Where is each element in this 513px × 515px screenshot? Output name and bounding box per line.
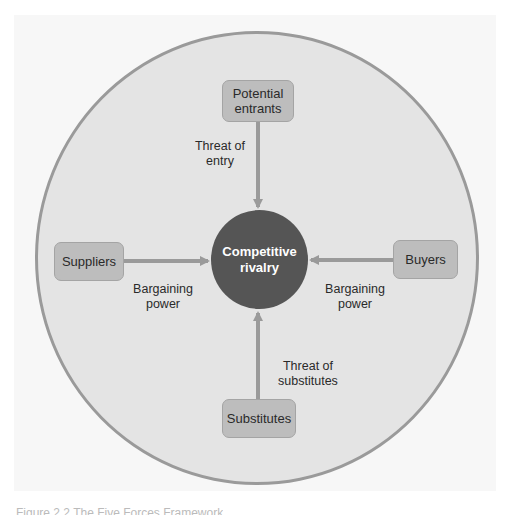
figure-caption: Figure 2.2 The Five Forces Framework [16, 506, 223, 515]
suppliers-label: Suppliers [62, 254, 116, 269]
suppliers-box: Suppliers [54, 242, 124, 281]
competitive-rivalry-node: Competitive rivalry [211, 210, 308, 309]
buyer-power-line1: Bargaining [320, 282, 390, 297]
substitutes-label-line2: substitutes [268, 374, 348, 389]
supplier-power-line1: Bargaining [128, 282, 198, 297]
center-label-line1: Competitive [222, 244, 296, 260]
entrants-label-line1: Potential [233, 86, 284, 101]
substitutes-label: Substitutes [227, 411, 291, 426]
buyer-bargaining-power-label: Bargaining power [320, 282, 390, 312]
threat-of-entry-label: Threat of entry [190, 139, 250, 169]
buyers-label: Buyers [405, 252, 445, 267]
buyers-box: Buyers [393, 240, 458, 279]
center-label-line2: rivalry [222, 260, 296, 276]
entrants-label-line2: entrants [233, 101, 284, 116]
supplier-power-line2: power [128, 297, 198, 312]
substitutes-label-line1: Threat of [268, 359, 348, 374]
substitutes-box: Substitutes [222, 399, 296, 438]
entry-label-line1: Threat of [190, 139, 250, 154]
buyer-power-line2: power [320, 297, 390, 312]
entry-label-line2: entry [190, 154, 250, 169]
supplier-bargaining-power-label: Bargaining power [128, 282, 198, 312]
potential-entrants-box: Potential entrants [222, 80, 294, 122]
threat-of-substitutes-label: Threat of substitutes [268, 359, 348, 389]
